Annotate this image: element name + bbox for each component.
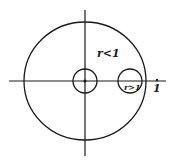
right-circle-label: r>1: [124, 82, 140, 92]
origin-dot: [83, 79, 86, 82]
axis-mark-label: 1: [153, 82, 161, 95]
inner-region-label: r<1: [97, 47, 120, 60]
unit-circle-diagram: r<1 r>1 1: [0, 0, 178, 167]
axis-point-dot: [156, 79, 158, 81]
